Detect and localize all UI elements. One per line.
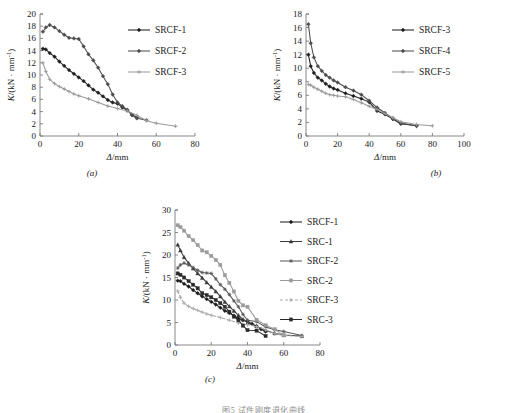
svg-text:SRCF-2: SRCF-2 bbox=[307, 256, 338, 266]
svg-text:80: 80 bbox=[191, 139, 201, 149]
svg-text:SRC-2: SRC-2 bbox=[307, 276, 333, 286]
svg-text:80: 80 bbox=[316, 348, 326, 358]
svg-text:Δ/mm: Δ/mm bbox=[106, 152, 129, 162]
svg-text:K/(kN · mm-1): K/(kN · mm-1) bbox=[140, 251, 152, 304]
svg-text:60: 60 bbox=[279, 348, 289, 358]
legend-item-srcf-3[interactable]: SRCF-3 bbox=[128, 67, 186, 77]
legend-item-srcf-5[interactable]: SRCF-5 bbox=[392, 67, 450, 77]
svg-text:20: 20 bbox=[207, 348, 217, 358]
svg-text:8: 8 bbox=[32, 82, 37, 92]
legend-item-srcf-4[interactable]: SRCF-4 bbox=[392, 46, 450, 56]
svg-text:16: 16 bbox=[27, 33, 37, 43]
legend-item-src-2[interactable]: SRC-2 bbox=[280, 276, 333, 286]
svg-text:60: 60 bbox=[396, 139, 406, 149]
series-srcf-2 bbox=[41, 23, 148, 122]
svg-text:6: 6 bbox=[298, 90, 303, 100]
svg-text:18: 18 bbox=[27, 21, 37, 31]
legend-item-srcf-3[interactable]: SRCF-3 bbox=[280, 295, 338, 305]
svg-text:SRCF-1: SRCF-1 bbox=[307, 217, 338, 227]
svg-text:14: 14 bbox=[293, 36, 303, 46]
svg-text:5: 5 bbox=[167, 318, 172, 328]
svg-text:20: 20 bbox=[74, 139, 84, 149]
legend-item-srcf-3[interactable]: SRCF-3 bbox=[392, 25, 450, 35]
svg-text:2: 2 bbox=[298, 117, 303, 127]
chart-panel-b: 024681012141618020406080100Δ/mmK/(kN · m… bbox=[264, 0, 528, 196]
chart-panel-a: 02468101214161820020406080Δ/mmK/(kN · mm… bbox=[0, 0, 264, 196]
legend-item-srcf-1[interactable]: SRCF-1 bbox=[280, 217, 338, 227]
svg-text:20: 20 bbox=[27, 9, 37, 19]
svg-text:40: 40 bbox=[365, 139, 375, 149]
svg-text:4: 4 bbox=[32, 107, 37, 117]
legend-item-srcf-2[interactable]: SRCF-2 bbox=[280, 256, 338, 266]
figure-caption-strip: 图5 试件刚度退化曲线 bbox=[0, 404, 528, 413]
svg-text:80: 80 bbox=[428, 139, 438, 149]
svg-text:0: 0 bbox=[167, 340, 172, 350]
chart-c-svg: 051015202530020406080Δ/mmK/(kN · mm-1)SR… bbox=[125, 196, 415, 386]
svg-text:60: 60 bbox=[152, 139, 162, 149]
legend-item-srcf-2[interactable]: SRCF-2 bbox=[128, 46, 186, 56]
svg-text:16: 16 bbox=[293, 23, 303, 33]
chart-panel-c: 051015202530020406080Δ/mmK/(kN · mm-1)SR… bbox=[125, 196, 415, 401]
svg-text:25: 25 bbox=[162, 228, 172, 238]
svg-text:12: 12 bbox=[27, 58, 36, 68]
svg-text:K/(kN · mm-1): K/(kN · mm-1) bbox=[5, 49, 17, 102]
svg-text:8: 8 bbox=[298, 77, 303, 87]
svg-text:10: 10 bbox=[293, 63, 303, 73]
series-srcf-5 bbox=[306, 83, 434, 128]
svg-text:20: 20 bbox=[333, 139, 343, 149]
svg-text:0: 0 bbox=[173, 348, 178, 358]
svg-text:SRC-3: SRC-3 bbox=[307, 315, 333, 325]
legend-item-srcf-1[interactable]: SRCF-1 bbox=[128, 25, 186, 35]
svg-text:4: 4 bbox=[298, 104, 303, 114]
svg-text:SRCF-5: SRCF-5 bbox=[419, 67, 450, 77]
svg-text:2: 2 bbox=[32, 119, 37, 129]
chart-a-svg: 02468101214161820020406080Δ/mmK/(kN · mm… bbox=[0, 0, 264, 180]
series-src-2 bbox=[176, 224, 285, 337]
figure-container: 02468101214161820020406080Δ/mmK/(kN · mm… bbox=[0, 0, 528, 413]
svg-text:18: 18 bbox=[293, 9, 303, 19]
panel-a-label: (a) bbox=[0, 168, 224, 178]
panel-c-label: (c) bbox=[65, 374, 355, 384]
svg-text:K/(kN · mm-1): K/(kN · mm-1) bbox=[271, 49, 283, 102]
svg-text:10: 10 bbox=[162, 295, 172, 305]
svg-text:0: 0 bbox=[38, 139, 43, 149]
panel-b-label: (b) bbox=[304, 168, 528, 178]
svg-text:15: 15 bbox=[162, 273, 172, 283]
chart-b-svg: 024681012141618020406080100Δ/mmK/(kN · m… bbox=[264, 0, 528, 180]
svg-text:20: 20 bbox=[162, 250, 172, 260]
figure-caption: 图5 试件刚度退化曲线 bbox=[0, 404, 528, 413]
svg-text:SRCF-3: SRCF-3 bbox=[155, 67, 186, 77]
svg-text:0: 0 bbox=[298, 131, 303, 141]
legend-item-src-1[interactable]: SRC-1 bbox=[280, 237, 333, 247]
series-srcf-4 bbox=[306, 22, 418, 127]
series-src-3 bbox=[176, 272, 267, 338]
svg-text:10: 10 bbox=[27, 70, 37, 80]
series-srcf-3 bbox=[306, 53, 418, 128]
svg-text:100: 100 bbox=[457, 139, 471, 149]
svg-text:0: 0 bbox=[32, 131, 37, 141]
svg-text:SRCF-3: SRCF-3 bbox=[307, 295, 338, 305]
svg-text:SRCF-3: SRCF-3 bbox=[419, 25, 450, 35]
svg-text:SRCF-1: SRCF-1 bbox=[155, 25, 186, 35]
svg-text:14: 14 bbox=[27, 46, 37, 56]
svg-text:30: 30 bbox=[162, 205, 172, 215]
svg-text:6: 6 bbox=[32, 94, 37, 104]
svg-text:0: 0 bbox=[304, 139, 309, 149]
svg-text:12: 12 bbox=[293, 50, 302, 60]
svg-text:SRCF-4: SRCF-4 bbox=[419, 46, 450, 56]
legend-item-src-3[interactable]: SRC-3 bbox=[280, 315, 333, 325]
svg-text:SRC-1: SRC-1 bbox=[307, 237, 333, 247]
svg-text:40: 40 bbox=[113, 139, 123, 149]
svg-text:40: 40 bbox=[243, 348, 253, 358]
svg-text:Δ/mm: Δ/mm bbox=[373, 152, 396, 162]
svg-text:Δ/mm: Δ/mm bbox=[236, 361, 259, 371]
svg-text:SRCF-2: SRCF-2 bbox=[155, 46, 186, 56]
